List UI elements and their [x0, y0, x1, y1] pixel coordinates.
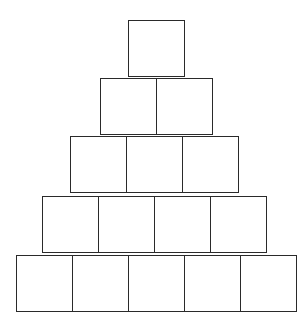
pyramid-box [128, 255, 185, 312]
pyramid-box [156, 78, 213, 135]
pyramid-box [126, 136, 183, 193]
pyramid-box [70, 136, 127, 193]
pyramid-box [72, 255, 129, 312]
pyramid-box [98, 196, 155, 253]
pyramid-box [100, 78, 157, 135]
pyramid-box [210, 196, 267, 253]
pyramid-box [128, 20, 185, 77]
pyramid-box [154, 196, 211, 253]
pyramid-box [42, 196, 99, 253]
pyramid-box [184, 255, 241, 312]
pyramid-diagram [0, 0, 308, 329]
pyramid-box [16, 255, 73, 312]
pyramid-box [182, 136, 239, 193]
pyramid-box [240, 255, 297, 312]
